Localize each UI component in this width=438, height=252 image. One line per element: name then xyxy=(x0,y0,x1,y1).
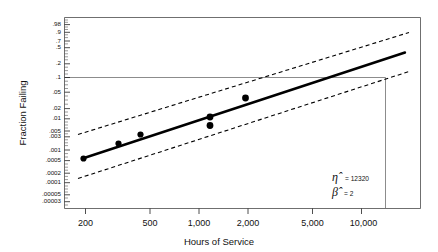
fitted-line-group xyxy=(83,53,406,159)
ytick-label: .2 xyxy=(56,59,62,66)
ytick-label: .05 xyxy=(52,88,61,95)
data-point xyxy=(207,122,214,129)
xtick-label: 200 xyxy=(78,218,93,228)
upper-confidence-line xyxy=(78,33,409,135)
ytick-label: .98 xyxy=(52,20,61,27)
ytick-label: .0005 xyxy=(46,156,62,163)
xtick-label: 500 xyxy=(142,218,157,228)
eta-hat-value: = 12320 xyxy=(345,175,369,182)
xtick-label: 1,000 xyxy=(188,218,211,228)
x-axis-ticks xyxy=(86,209,362,215)
weibull-probability-plot: .98 .9 .7 .5 .2 .1 .05 .02 .01 .005 .003… xyxy=(0,0,438,252)
xtick-label: 2,000 xyxy=(237,218,260,228)
data-point xyxy=(242,95,249,102)
data-point xyxy=(137,131,143,137)
xtick-label: 5,000 xyxy=(301,218,324,228)
x-axis-title: Hours of Service xyxy=(184,236,254,247)
beta-hat-symbol: β̂ xyxy=(331,185,343,199)
ytick-label: .0002 xyxy=(46,169,62,176)
ytick-label: .1 xyxy=(56,73,62,80)
ytick-label: .00003 xyxy=(42,197,61,204)
y-axis-title: Fraction Failing xyxy=(17,81,28,146)
parameter-annotations: η̂ = 12320 β̂ = 2 xyxy=(331,170,369,199)
lower-confidence-line xyxy=(78,72,409,179)
eta-hat-symbol: η̂ xyxy=(332,170,343,184)
data-point xyxy=(115,140,121,146)
xtick-label: 10,000 xyxy=(350,218,378,228)
ytick-label: .003 xyxy=(49,132,62,139)
ytick-label: .001 xyxy=(49,146,62,153)
data-point xyxy=(207,114,214,121)
ytick-label: .02 xyxy=(52,104,61,111)
x-axis-tick-labels: 200 500 1,000 2,000 5,000 10,000 xyxy=(78,218,377,228)
weibull-fit-line xyxy=(83,53,406,159)
ytick-label: .0001 xyxy=(46,178,62,185)
y-axis-ticks xyxy=(65,20,71,205)
data-point xyxy=(80,155,86,161)
ytick-label: .9 xyxy=(56,28,62,35)
beta-hat-value: = 2 xyxy=(344,190,354,197)
ytick-label: .01 xyxy=(52,114,61,121)
chart-canvas: .98 .9 .7 .5 .2 .1 .05 .02 .01 .005 .003… xyxy=(0,0,438,252)
ytick-label: .5 xyxy=(56,43,62,50)
y-axis-tick-labels: .98 .9 .7 .5 .2 .1 .05 .02 .01 .005 .003… xyxy=(42,20,61,204)
